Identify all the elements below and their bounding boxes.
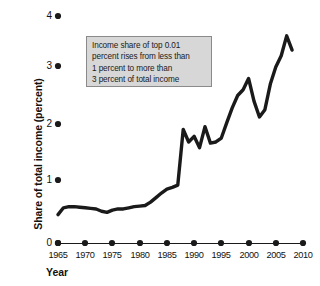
y-tick-dot (55, 63, 61, 69)
x-tick-dot (164, 240, 170, 246)
annotation-line-4: 3 percent of total income (92, 74, 207, 85)
x-tick-dot (246, 240, 252, 246)
x-tick-dot (137, 240, 143, 246)
y-tick-label-4: 4 (38, 10, 52, 21)
y-tick-label-3: 3 (38, 60, 52, 71)
chart-figure: Share of total income (percent) Year (0, 0, 320, 286)
x-tick-dot (218, 240, 224, 246)
y-tick-dot (55, 121, 61, 127)
annotation-line-1: Income share of top 0.01 (92, 40, 207, 51)
x-tick-dot (55, 240, 61, 246)
y-tick-dot (55, 13, 61, 19)
y-tick-label-1: 1 (38, 174, 52, 185)
x-tick-dot (82, 240, 88, 246)
x-tick-dot (191, 240, 197, 246)
y-tick-label-0: 0 (38, 237, 52, 248)
y-tick-dot (55, 177, 61, 183)
annotation-line-3: 1 percent to more than (92, 63, 207, 74)
x-tick-label-2010: 2010 (286, 250, 320, 260)
annotation-callout: Income share of top 0.01 percent rises f… (86, 36, 212, 87)
x-tick-dot (300, 240, 306, 246)
x-tick-dot (273, 240, 279, 246)
annotation-line-2: percent rises from less than (92, 51, 207, 62)
x-tick-dot (109, 240, 115, 246)
y-tick-label-2: 2 (38, 118, 52, 129)
